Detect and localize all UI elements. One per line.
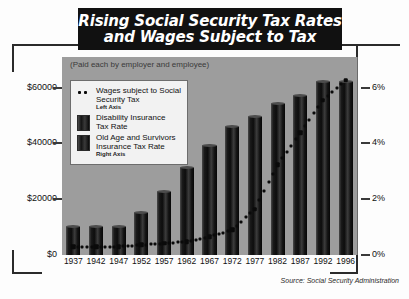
frame-bracket-bottom-left-horizontal xyxy=(12,272,42,274)
wage-line-dot xyxy=(331,91,334,94)
wage-line-dot xyxy=(244,216,247,219)
wage-line-dot xyxy=(249,212,252,215)
x-axis-tick-label: 1972 xyxy=(223,256,242,266)
wage-line-dot xyxy=(76,245,79,248)
x-axis-tick-label: 1937 xyxy=(64,256,83,266)
wage-line-dot xyxy=(317,105,320,108)
legend-item-axis-note: Left Axis xyxy=(96,104,182,111)
wage-line-data-point xyxy=(207,234,212,239)
legend-item-text: Wages subject to SocialSecurity TaxLeft … xyxy=(96,86,182,111)
bar-column xyxy=(271,104,285,255)
legend-item-label-line1: Wages subject to Social xyxy=(96,86,182,95)
bar-cap xyxy=(248,115,262,118)
wage-line-dot xyxy=(144,243,147,246)
wage-line-dot xyxy=(217,232,220,235)
bar-segment-oasi xyxy=(157,198,171,255)
wage-line-dot xyxy=(303,125,306,128)
wage-line-dot xyxy=(203,236,206,239)
x-axis-tick-label: 1967 xyxy=(200,256,219,266)
left-axis-tick-mark xyxy=(53,198,62,200)
bar-column xyxy=(134,213,148,255)
legend-item: Disability InsuranceTax Rate xyxy=(76,113,182,131)
wage-line-data-point xyxy=(116,244,121,249)
bar-segment-di xyxy=(271,103,285,127)
bar-column xyxy=(293,96,307,255)
wage-line-dot xyxy=(281,157,284,160)
x-axis: 1937194219471952195719621967197219771982… xyxy=(62,256,357,272)
right-axis-tick-label: 4% xyxy=(372,137,385,147)
wage-line-dot xyxy=(85,245,88,248)
source-note: Source: Social Security Administration xyxy=(281,277,399,284)
bar-segment-di xyxy=(248,116,262,133)
bar-segment-oasi xyxy=(134,212,148,255)
wage-line-dot xyxy=(90,245,93,248)
wage-line-dot xyxy=(258,199,261,202)
x-axis-tick-label: 1957 xyxy=(155,256,174,266)
right-axis-tick-mark xyxy=(361,142,370,144)
wage-line-dot xyxy=(335,87,338,90)
chart-subtitle: (Paid each by employer and employee) xyxy=(70,60,209,69)
right-axis-tick-label: 2% xyxy=(372,193,385,203)
wage-line-dot xyxy=(213,234,216,237)
wage-line-dot xyxy=(113,245,116,248)
wage-line-dot xyxy=(199,237,202,240)
right-axis-tick-label: 0% xyxy=(372,249,385,259)
wage-line-dot xyxy=(340,83,343,86)
wage-line-dot xyxy=(108,245,111,248)
wage-line-data-point xyxy=(94,244,99,249)
x-axis-tick-label: 1992 xyxy=(313,256,332,266)
legend-bar-swatch-icon xyxy=(76,113,96,131)
bar-segment-oasi xyxy=(316,98,330,255)
bar-column xyxy=(112,227,126,255)
wage-line-dot xyxy=(158,242,161,245)
wage-line-dot xyxy=(81,245,84,248)
wage-line-data-point xyxy=(321,98,326,103)
chart-title-line-1: Rising Social Security Tax Rates xyxy=(78,13,341,29)
bar-column xyxy=(66,227,80,255)
left-axis-tick-label: $0 xyxy=(6,249,57,259)
wage-line-dot xyxy=(272,172,275,175)
bar-segment-oasi xyxy=(112,226,126,255)
wage-line-dot xyxy=(154,242,157,245)
wage-line-dot xyxy=(131,244,134,247)
wage-line-dot xyxy=(99,245,102,248)
wage-line-dot xyxy=(190,239,193,242)
right-axis-tick-mark xyxy=(361,198,370,200)
bar-segment-oasi xyxy=(202,155,216,255)
legend-item-label-line1: Old Age and Survivors xyxy=(96,133,182,142)
frame-bracket-top-left-horizontal xyxy=(12,44,80,46)
left-axis-tick-label: $40000 xyxy=(6,137,57,147)
legend-item-label-line1: Disability Insurance xyxy=(96,113,182,122)
wage-line-dot xyxy=(235,224,238,227)
legend-item-axis-note: Right Axis xyxy=(96,151,182,158)
right-axis-tick-mark xyxy=(361,254,370,256)
legend-bar-swatch-icon xyxy=(76,133,96,151)
wage-line-data-point xyxy=(162,241,167,246)
right-axis-tick-label: 6% xyxy=(372,82,385,92)
wage-line-dot xyxy=(312,112,315,115)
right-axis-tick-mark xyxy=(361,87,370,89)
bar-column xyxy=(248,117,262,255)
bar-segment-oasi xyxy=(271,126,285,255)
chart-title-banner: Rising Social Security Tax Rates and Wag… xyxy=(78,8,342,50)
legend-item-label-line2: Tax Rate xyxy=(96,122,182,131)
wage-line-data-point xyxy=(71,244,76,249)
wage-line-dot xyxy=(126,244,129,247)
wage-line-dot xyxy=(122,245,125,248)
x-axis-tick-label: 1952 xyxy=(132,256,151,266)
wage-line-dot xyxy=(262,190,265,193)
bar-segment-oasi xyxy=(248,132,262,255)
wage-line-dot xyxy=(226,230,229,233)
wage-line-dot xyxy=(176,241,179,244)
wage-line-dot xyxy=(172,241,175,244)
wage-line-data-point xyxy=(275,162,280,167)
legend-dotted-line-icon xyxy=(76,86,96,94)
wage-line-dot xyxy=(222,231,225,234)
wage-line-dot xyxy=(294,138,297,141)
wage-line-dot xyxy=(308,118,311,121)
bar-segment-oasi xyxy=(225,141,239,255)
bar-cap xyxy=(225,125,239,128)
x-axis-tick-label: 1962 xyxy=(177,256,196,266)
x-axis-tick-label: 1987 xyxy=(291,256,310,266)
wage-line-dot xyxy=(285,150,288,153)
